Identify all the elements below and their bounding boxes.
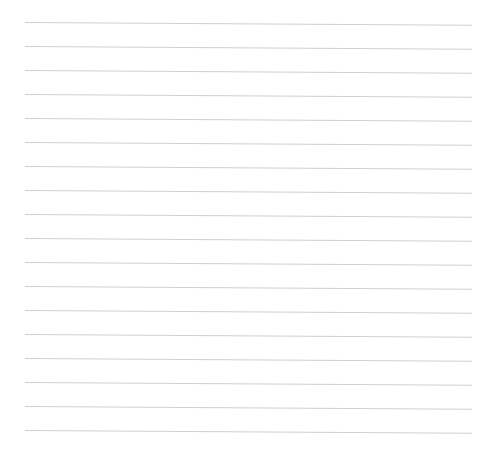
ruled-line [25, 190, 472, 194]
ruled-line [25, 46, 472, 50]
ruled-line [25, 94, 472, 98]
ruled-line [25, 70, 472, 74]
ruled-line [25, 118, 472, 122]
ruled-line [25, 382, 472, 386]
ruled-line [25, 214, 472, 218]
ruled-line [25, 334, 472, 338]
ruled-line [25, 22, 472, 26]
ruled-line [25, 430, 472, 434]
ruled-line [25, 166, 472, 170]
ruled-line [25, 262, 472, 266]
ruled-line [25, 358, 472, 362]
ruled-line [25, 142, 472, 146]
ruled-line [25, 310, 472, 314]
ruled-line [25, 238, 472, 242]
lined-paper-sheet [0, 0, 496, 470]
ruled-line [25, 286, 472, 290]
ruled-line [25, 406, 472, 410]
